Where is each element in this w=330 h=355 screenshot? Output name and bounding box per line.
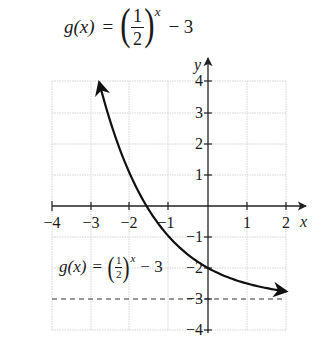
x-tick-label: −3	[82, 214, 99, 231]
label-tail: − 3	[140, 257, 162, 277]
x-tick-label: −4	[43, 214, 60, 231]
label-func-name: g(x)	[59, 257, 86, 277]
y-tick-label: 2	[195, 135, 203, 152]
y-axis-label: y	[192, 56, 202, 74]
y-tick-label: −2	[186, 259, 203, 276]
y-tick-label: 4	[195, 72, 203, 89]
x-axis-label: x	[299, 213, 307, 230]
label-denominator: 2	[116, 268, 122, 280]
graph-function-label: g(x) = ( 1 2 ) x − 3	[59, 250, 163, 284]
label-fraction: 1 2	[115, 255, 123, 280]
label-paren-close: )	[123, 250, 130, 284]
x-tick-label: −2	[120, 214, 137, 231]
label-numerator: 1	[115, 255, 123, 268]
y-tick-label: −4	[186, 321, 203, 338]
y-tick-label: 1	[195, 166, 203, 183]
y-tick-label: 3	[195, 104, 203, 121]
x-tick-label: 1	[243, 214, 251, 231]
label-paren-open: (	[107, 250, 114, 284]
x-tick-label: 2	[282, 214, 290, 231]
label-exponent: x	[130, 252, 135, 264]
graph: −4 −3 −2 −1 1 2 x 4 3 2 1 −1 −2 −3 −4 y	[0, 0, 330, 355]
y-tick-label: −1	[186, 228, 203, 245]
y-tick-label: −3	[186, 290, 203, 307]
label-equals: =	[92, 257, 102, 277]
x-tick-label: −1	[157, 214, 174, 231]
